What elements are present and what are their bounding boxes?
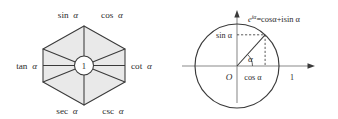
hexagon-label-sin-fn: sin: [58, 10, 69, 20]
figure-container: 1 sin α cos α cot α csc α sec α: [0, 0, 338, 119]
hexagon-label-sec-fn: sec: [56, 106, 68, 116]
origin-label: O: [226, 72, 233, 82]
hexagon-label-sin-arg: α: [73, 10, 78, 20]
hexagon-label-cot-arg: α: [147, 61, 152, 71]
imaginary-axis-arrow-icon: [234, 10, 239, 18]
hexagon-label-csc-arg: α: [119, 106, 124, 116]
hexagon-label-cos-fn: cos: [101, 10, 114, 20]
euler-formula-body: =cosα+isin α: [256, 15, 300, 24]
euler-formula: eiα=cosα+isin α: [248, 14, 301, 24]
real-axis-arrow-icon: [308, 63, 316, 68]
sine-projection-label-text: sin α: [216, 31, 233, 40]
hexagon-diagram-group: 1 sin α cos α cot α csc α sec α: [16, 10, 152, 116]
hexagon-label-csc-fn: csc: [102, 106, 114, 116]
hexagon-label-tan-fn: tan: [16, 61, 28, 71]
real-axis-unit-tick-label: 1: [290, 73, 294, 82]
diagram-canvas: 1 sin α cos α cot α csc α sec α: [0, 0, 338, 119]
hexagon-label-sin: sin α: [58, 10, 79, 20]
sine-projection-label: sin α: [216, 31, 233, 40]
hexagon-label-tan: tan α: [16, 61, 37, 71]
hexagon-label-csc: csc α: [102, 106, 124, 116]
hexagon-label-cos: cos α: [101, 10, 123, 20]
hexagon-label-tan-arg: α: [32, 61, 37, 71]
hexagon-label-sec-arg: α: [73, 106, 78, 116]
hexagon-center-label: 1: [82, 61, 86, 71]
hexagon-label-sec: sec α: [56, 106, 78, 116]
hexagon-label-cot: cot α: [131, 61, 152, 71]
angle-alpha-label: α: [248, 54, 253, 64]
hexagon-label-cot-fn: cot: [131, 61, 143, 71]
hexagon-label-cos-arg: α: [118, 10, 123, 20]
cosine-projection-label-text: cos α: [244, 73, 262, 82]
cosine-projection-label: cos α: [244, 73, 262, 82]
circle-diagram-group: sin α cos α O α 1 eiα=cosα+isin α: [182, 10, 315, 108]
